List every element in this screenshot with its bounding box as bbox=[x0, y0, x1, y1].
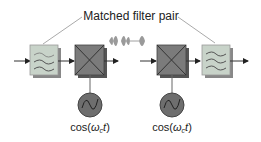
oscillator-2 bbox=[160, 93, 184, 117]
oscillator-1 bbox=[78, 93, 102, 117]
oscillator-2-label: cos(ωct) bbox=[152, 121, 192, 134]
matched-filter-diagram: Matched filter pair cos(ωct) bbox=[0, 0, 261, 142]
modulated-pulses bbox=[109, 36, 145, 46]
leader-line-right bbox=[178, 17, 215, 43]
mixer-2-block bbox=[157, 45, 189, 78]
diagram-title: Matched filter pair bbox=[83, 9, 178, 23]
transmit-filter-block bbox=[30, 45, 61, 78]
oscillator-1-label: cos(ωct) bbox=[70, 121, 110, 134]
leader-line-left bbox=[43, 17, 82, 44]
mixer-1-block bbox=[75, 45, 107, 78]
receive-filter-block bbox=[202, 45, 233, 78]
